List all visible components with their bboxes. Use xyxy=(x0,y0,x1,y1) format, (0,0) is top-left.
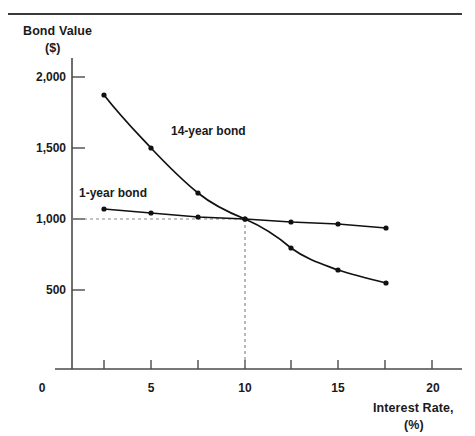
reference-dashed-lines xyxy=(72,219,245,369)
data-point xyxy=(101,92,106,97)
data-point xyxy=(383,225,388,230)
axis-lines xyxy=(55,58,462,369)
data-point xyxy=(195,214,200,219)
data-point xyxy=(148,145,153,150)
data-point xyxy=(383,280,388,285)
y-axis-tick-marks xyxy=(72,77,85,290)
data-point xyxy=(288,245,293,250)
data-point xyxy=(242,216,247,221)
data-point xyxy=(148,210,153,215)
data-point xyxy=(288,219,293,224)
data-point xyxy=(335,267,340,272)
chart-figure: Bond Value ($) Interest Rate, (%) 2,000 … xyxy=(0,0,475,436)
data-point xyxy=(101,206,106,211)
chart-plot-area xyxy=(0,0,475,436)
x-axis-tick-marks xyxy=(104,360,432,369)
data-point xyxy=(335,221,340,226)
data-point xyxy=(195,190,200,195)
